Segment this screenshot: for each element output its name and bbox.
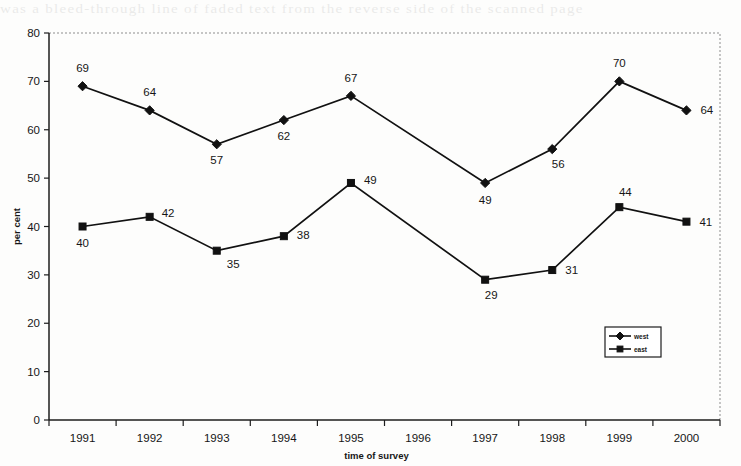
data-point-marker-square (549, 267, 556, 274)
legend-label-east: east (634, 346, 648, 353)
chart-canvas: 01020304050607080per cent199119921993199… (0, 0, 741, 466)
legend-label-west: west (633, 333, 649, 340)
data-point-marker-square (79, 223, 86, 230)
data-point-label: 31 (565, 264, 578, 276)
x-axis-tick-label: 1992 (137, 432, 163, 444)
data-point-marker-diamond (279, 115, 288, 124)
data-point-marker-diamond (145, 106, 154, 115)
y-axis-tick-label: 20 (27, 317, 40, 329)
data-point-marker-square (280, 233, 287, 240)
data-point-label: 64 (143, 86, 156, 98)
data-point-label: 70 (613, 57, 626, 69)
line-chart: 01020304050607080per cent199119921993199… (0, 0, 741, 466)
legend-box (605, 327, 661, 357)
series-line-east (83, 183, 687, 280)
data-point-label: 49 (364, 174, 377, 186)
x-axis-tick-label: 1996 (405, 432, 431, 444)
data-point-label: 40 (76, 237, 89, 249)
data-point-label: 41 (699, 216, 712, 228)
data-point-label: 64 (700, 104, 713, 116)
series-line-west (83, 81, 687, 183)
x-axis-title: time of survey (344, 450, 409, 461)
data-point-label: 62 (277, 130, 290, 142)
data-point-marker-diamond (212, 140, 221, 149)
data-point-label: 35 (227, 258, 240, 270)
y-axis-tick-label: 80 (27, 27, 40, 39)
data-point-marker-diamond (78, 82, 87, 91)
data-point-label: 57 (210, 154, 223, 166)
y-axis-tick-label: 70 (27, 75, 40, 87)
data-point-marker-square (146, 213, 153, 220)
x-axis-tick-label: 2000 (674, 432, 700, 444)
data-point-marker-square (683, 218, 690, 225)
y-axis-tick-label: 30 (27, 269, 40, 281)
data-point-label: 44 (619, 186, 632, 198)
x-axis-tick-label: 1998 (539, 432, 565, 444)
x-axis-tick-label: 1999 (607, 432, 633, 444)
data-point-label: 56 (552, 158, 565, 170)
x-axis-tick-label: 1993 (204, 432, 230, 444)
data-point-marker-square (347, 179, 354, 186)
data-point-label: 42 (162, 207, 175, 219)
x-axis-tick-label: 1994 (271, 432, 297, 444)
data-point-marker-square (617, 346, 623, 352)
data-point-marker-square (616, 204, 623, 211)
data-point-marker-square (213, 247, 220, 254)
y-axis-tick-label: 0 (34, 414, 40, 426)
y-axis-tick-label: 60 (27, 124, 40, 136)
data-point-marker-diamond (481, 178, 490, 187)
x-axis-tick-label: 1991 (70, 432, 96, 444)
data-point-marker-square (482, 276, 489, 283)
data-point-label: 38 (297, 229, 310, 241)
x-axis-tick-label: 1995 (338, 432, 364, 444)
y-axis-tick-label: 50 (27, 172, 40, 184)
data-point-label: 69 (76, 62, 89, 74)
chart-page: was a bleed-through line of faded text f… (0, 0, 741, 466)
data-point-marker-diamond (682, 106, 691, 115)
data-point-label: 29 (485, 289, 498, 301)
data-point-label: 67 (345, 72, 358, 84)
data-point-marker-diamond (346, 91, 355, 100)
y-axis-tick-label: 10 (27, 366, 40, 378)
y-axis-tick-label: 40 (27, 221, 40, 233)
data-point-label: 49 (479, 194, 492, 206)
x-axis-tick-label: 1997 (472, 432, 498, 444)
y-axis-title: per cent (11, 207, 22, 245)
